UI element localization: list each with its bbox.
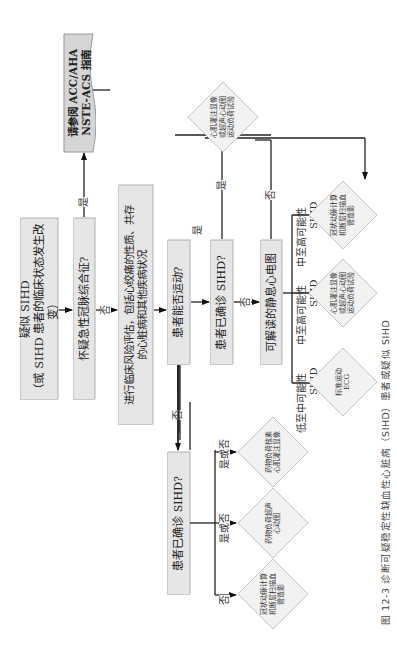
label-no-bottom: 否	[219, 595, 230, 605]
pharm-echo-text: 药物负荷超声心动图	[265, 501, 282, 545]
figure-caption: 图 12-3 诊断可疑稳定性缺血性心脏病（SIHD）患者或疑似 SIHD	[378, 320, 392, 625]
pharm-nuclear-text: 药物负荷核素心肌灌注显像	[265, 430, 282, 474]
label-yes-or-no-top: 是或否	[219, 439, 230, 469]
diamond-coronary-ct-bottom: 冠状动脉计算机断层扫描血管造影	[237, 558, 309, 630]
bottom-branch-lines	[0, 0, 397, 655]
coronary-ct-bottom-text: 冠状动脉计算机断层扫描血管造影	[260, 572, 286, 616]
flowchart: 疑似 SIHD （或 SIHD 患者的临床状态发生改变） 请参阅 ACC/AHA…	[0, 0, 397, 655]
diamond-pharm-nuclear: 药物负荷核素心肌灌注显像	[237, 416, 309, 488]
label-yes-or-no-mid: 是或否	[219, 513, 230, 543]
diamond-pharm-echo: 药物负荷超声心动图	[237, 487, 309, 559]
